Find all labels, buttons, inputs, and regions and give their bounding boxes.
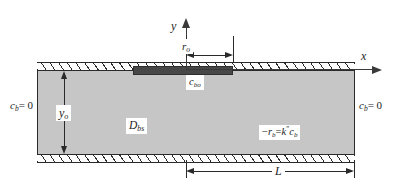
L-dim-tick-right [354, 160, 355, 178]
yo-dim-arrow-down-icon [61, 146, 67, 154]
y-axis-label: y [171, 20, 176, 32]
rate-k-superscript: ″ [286, 125, 289, 134]
rate-r-subscript: b [272, 131, 276, 139]
x-axis-arrowhead-icon [372, 66, 382, 74]
bottom-wall-hatched [37, 154, 355, 163]
L-dim-arrow-left-icon [186, 168, 194, 174]
yo-dim-arrow-up-icon [61, 71, 67, 79]
reaction-rate-label: −rb=k″cb [259, 125, 300, 140]
x-axis-label: x [361, 50, 366, 62]
bc-right-equation: = 0 [368, 99, 382, 111]
D-subscript: bs [137, 124, 144, 133]
left-boundary-condition-label: cb= 0 [10, 100, 33, 111]
diffusivity-label: Dbs [126, 118, 147, 134]
bc-left-equation: = 0 [19, 99, 33, 111]
L-dim-line [189, 171, 352, 172]
source-strip [133, 66, 233, 75]
ro-dimension-label: ro [179, 39, 193, 54]
right-boundary-condition-label: cb= 0 [359, 100, 382, 111]
cbo-subscript: bo [194, 81, 201, 89]
source-concentration-label: cbo [186, 75, 204, 90]
cbo-symbol: c [189, 76, 194, 87]
ro-subscript: o [186, 45, 190, 54]
x-axis-line [186, 69, 356, 70]
domain-right-boundary [354, 62, 355, 163]
L-dim-arrow-right-icon [346, 168, 354, 174]
diagram-figure: y x ro yo L cbo Dbs −rb=k″cb cb= 0 cb= 0 [0, 0, 395, 188]
L-dimension-label: L [272, 163, 285, 179]
bc-left-subscript: b [15, 104, 19, 113]
domain-left-boundary [37, 62, 38, 163]
ro-dim-arrow-right-icon [225, 52, 233, 58]
L-symbol: L [275, 164, 282, 178]
y-axis-arrowhead-icon [182, 18, 190, 28]
ro-dim-tick-right [233, 36, 234, 62]
rate-c-subscript: b [294, 131, 298, 139]
yo-subscript: o [64, 112, 68, 121]
bc-right-subscript: b [364, 104, 368, 113]
yo-dimension-label: yo [56, 105, 71, 121]
